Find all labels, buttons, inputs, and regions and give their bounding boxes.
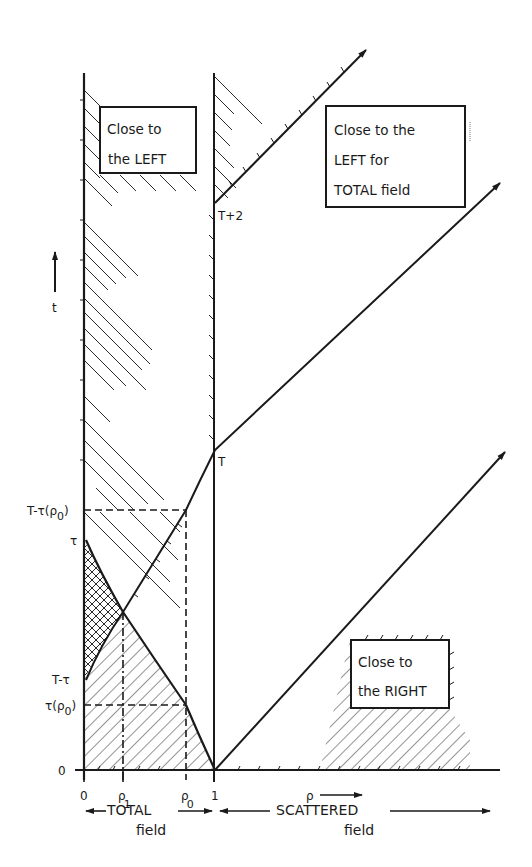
vtick-0-main: T-τ(ρ [26,504,57,518]
vertical-tick-labels: T-τ(ρ0) τ T-τ τ(ρ0) 0 [26,504,77,778]
rising-characteristic [86,183,500,680]
total-label-line1: TOTAL [106,802,152,818]
characteristics-diagram: Close to the LEFT Close to the LEFT for … [0,0,532,867]
vtick-0-sub: 0 [57,510,64,523]
box-close-to-right: Close to the RIGHT [351,640,449,708]
total-label-line2: field [136,822,166,838]
htick-0: 0 [80,789,88,803]
svg-text:T-τ(ρ0): T-τ(ρ0) [26,504,69,523]
box-right-line1: Close to [358,654,413,670]
vtick-1: τ [70,534,77,548]
vtick-3-sub: 0 [65,705,72,718]
scattered-field-label: SCATTERED field [220,802,490,838]
label-t-plus-2: T+2 [217,209,243,223]
vtick-0-suffix: ) [64,504,69,518]
svg-text:ρ0: ρ0 [181,789,194,811]
svg-text:τ(ρ0): τ(ρ0) [45,699,76,718]
htick-3: 1 [211,789,219,803]
box-close-to-left: Close to the LEFT [100,107,196,173]
vtick-3-suffix: ) [72,699,77,713]
vtick-2: T-τ [51,673,70,687]
box-left-line2: the LEFT [108,151,167,167]
box-left-total-line2: LEFT for [334,152,389,168]
rho-axis-label: ρ [306,789,314,803]
vtick-3-main: τ(ρ [45,699,65,713]
box-left-total-line3: TOTAL field [333,182,410,198]
htick-2-sub: 0 [187,798,194,811]
scattered-label-line1: SCATTERED [276,802,358,818]
label-t: T [217,455,226,469]
box-left-line1: Close to [107,121,162,137]
axis-tick-stems [77,770,214,782]
scattered-label-line2: field [344,822,374,838]
vtick-4: 0 [58,764,66,778]
box-close-to-left-total: Close to the LEFT for TOTAL field [326,106,465,207]
box-right-line2: the RIGHT [358,683,427,699]
t-axis-label: t [52,301,57,315]
box-left-total-line1: Close to the [334,122,415,138]
